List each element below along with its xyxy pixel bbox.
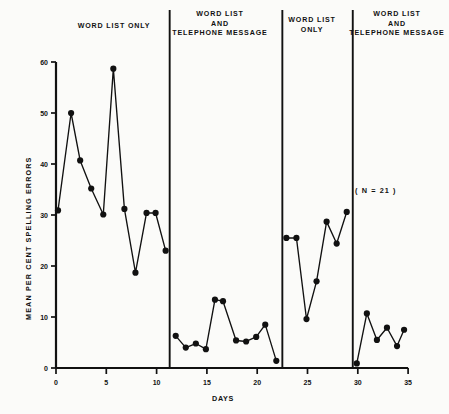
data-point [100,211,106,217]
y-axis-label: MEAN PER CENT SPELLING ERRORS [24,156,33,320]
chart-plot: 010203040506005101520253035 [0,0,449,414]
x-tick-label: 10 [153,379,161,386]
x-tick-label: 20 [253,379,261,386]
data-series [55,66,169,276]
data-point [293,235,299,241]
data-point [283,235,289,241]
data-series [173,297,280,364]
data-point [55,207,61,213]
data-point [173,333,179,339]
figure-container: 010203040506005101520253035 WORD LIST ON… [0,0,449,414]
data-point [152,210,158,216]
data-series-group [55,66,407,367]
axes-group: 010203040506005101520253035 [40,59,412,386]
data-point [212,297,218,303]
series-line [286,212,346,319]
y-tick-label: 50 [40,110,48,117]
series-line [58,69,166,273]
x-tick-label: 15 [203,379,211,386]
data-point [313,278,319,284]
data-point [384,325,390,331]
y-tick-label: 60 [40,59,48,66]
panel-title-word-list-and-telephone-2: WORD LIST AND TELEPHONE MESSAGE [348,10,446,39]
y-tick-label: 20 [40,263,48,270]
data-point [220,298,226,304]
data-series [283,209,350,322]
x-axis-label: DAYS [212,394,234,403]
data-point [233,337,239,343]
y-tick-label: 40 [40,161,48,168]
data-point [163,248,169,254]
panel-title-word-list-only-1: WORD LIST ONLY [52,22,176,32]
data-point [68,110,74,116]
data-point [143,210,149,216]
data-point [401,327,407,333]
data-point [110,66,116,72]
data-point [364,310,370,316]
panel-title-word-list-only-2: WORD LIST ONLY [280,16,344,35]
x-tick-label: 25 [304,379,312,386]
x-tick-label: 30 [354,379,362,386]
data-point [324,219,330,225]
x-tick-label: 35 [404,379,412,386]
series-line [357,313,404,363]
panel-title-word-list-and-telephone-1: WORD LIST AND TELEPHONE MESSAGE [166,10,274,39]
y-tick-label: 10 [40,314,48,321]
data-point [262,322,268,328]
data-point [77,157,83,163]
data-point [354,360,360,366]
data-point [303,316,309,322]
data-point [334,240,340,246]
x-tick-label: 0 [54,379,58,386]
sample-size-annotation: ( N = 21 ) [355,186,397,195]
data-point [193,340,199,346]
data-point [253,334,259,340]
data-point [394,343,400,349]
data-point [121,206,127,212]
phase-divider-group [170,10,353,368]
data-point [203,346,209,352]
data-series [354,310,407,366]
series-line [176,300,277,361]
y-tick-label: 0 [44,365,48,372]
data-point [273,358,279,364]
data-point [243,338,249,344]
data-point [88,185,94,191]
data-point [132,270,138,276]
x-tick-label: 5 [104,379,108,386]
y-tick-label: 30 [40,212,48,219]
data-point [183,345,189,351]
data-point [374,337,380,343]
data-point [344,209,350,215]
